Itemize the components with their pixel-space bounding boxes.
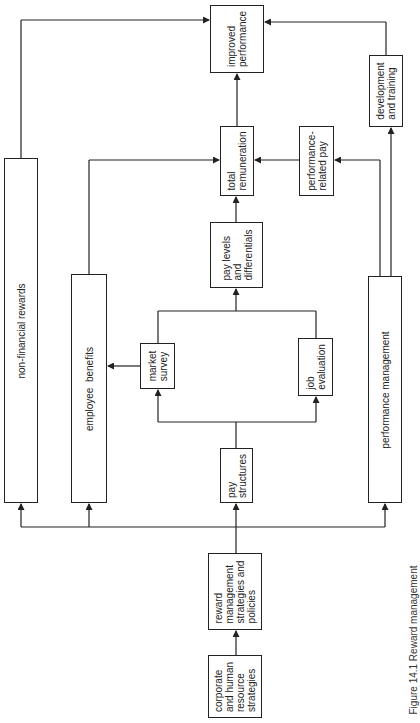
- node-job-evaluation: job evaluation: [298, 338, 333, 396]
- node-label: employee benefits: [84, 347, 95, 431]
- node-improved-performance: improved performance: [210, 5, 264, 73]
- node-total-remuneration: total remuneration: [220, 126, 254, 196]
- node-label: performance management: [380, 331, 391, 448]
- node-label: non-financial rewards: [16, 283, 27, 378]
- node-performance-management: performance management: [368, 276, 402, 503]
- node-employee-benefits: employee benefits: [71, 274, 107, 503]
- node-label: development and training: [375, 62, 397, 119]
- node-reward-management: reward management strategies and policie…: [208, 553, 262, 630]
- node-label: job evaluation: [305, 344, 327, 390]
- node-market-survey: market survey: [140, 343, 175, 389]
- node-development-training: development and training: [369, 55, 403, 127]
- figure-caption: Figure 14.1 Reward management: [406, 560, 420, 720]
- node-label: total remuneration: [226, 132, 248, 191]
- caption-text: Figure 14.1 Reward management: [408, 566, 419, 715]
- node-label: pay levels and differentials: [220, 230, 253, 281]
- node-performance-related-pay: performance- related pay: [299, 126, 334, 196]
- node-label: market survey: [147, 351, 169, 382]
- node-corporate-hr-strategies: corporate and human resource strategies: [208, 655, 262, 718]
- node-label: reward management strategies and policie…: [213, 560, 257, 623]
- node-label: improved performance: [226, 11, 248, 67]
- node-label: corporate and human resource strategies: [213, 661, 257, 711]
- node-non-financial-rewards: non-financial rewards: [4, 158, 38, 503]
- node-pay-structures: pay structures: [220, 448, 253, 503]
- node-label: pay structures: [226, 454, 248, 498]
- node-pay-levels: pay levels and differentials: [210, 222, 263, 288]
- node-label: performance- related pay: [306, 131, 328, 190]
